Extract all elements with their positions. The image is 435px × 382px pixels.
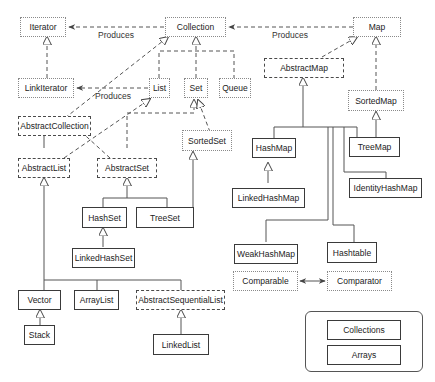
node-hashtable[interactable]: Hashtable (327, 242, 377, 263)
node-abstractcollection[interactable]: AbstractCollection (18, 116, 91, 136)
node-list[interactable]: List (149, 78, 170, 98)
edge-label-produces: Produces (272, 30, 308, 40)
node-arrays[interactable]: Arrays (327, 345, 401, 365)
node-queue[interactable]: Queue (219, 78, 251, 98)
node-abstractmap[interactable]: AbstractMap (264, 58, 344, 78)
node-vector[interactable]: Vector (18, 290, 61, 310)
node-sortedset[interactable]: SortedSet (182, 130, 232, 151)
node-arraylist[interactable]: ArrayList (74, 290, 119, 310)
node-identityhashmap[interactable]: IdentityHashMap (349, 178, 422, 198)
node-hashmap[interactable]: HashMap (252, 138, 296, 158)
node-collection[interactable]: Collection (165, 17, 226, 37)
node-set[interactable]: Set (184, 78, 208, 98)
node-map[interactable]: Map (353, 17, 401, 37)
node-linkedhashmap[interactable]: LinkedHashMap (232, 188, 305, 208)
node-linkedlist[interactable]: LinkedList (153, 334, 209, 355)
node-treeset[interactable]: TreeSet (136, 207, 194, 228)
node-sortedmap[interactable]: SortedMap (348, 90, 404, 111)
node-abstractset[interactable]: AbstractSet (97, 158, 157, 178)
node-comparable[interactable]: Comparable (233, 271, 298, 291)
node-stack[interactable]: Stack (24, 325, 55, 345)
node-abstractsequentiallist[interactable]: AbstractSequentialList (136, 290, 225, 310)
edge-label-produces: Produces (95, 91, 131, 101)
node-treemap[interactable]: TreeMap (349, 137, 400, 157)
edge-label-produces: Produces (98, 30, 134, 40)
node-abstractlist[interactable]: AbstractList (18, 158, 70, 178)
class-hierarchy-diagram: Produces Produces Produces Iterator Coll… (0, 0, 435, 382)
node-weakhashmap[interactable]: WeakHashMap (234, 244, 298, 264)
node-hashset[interactable]: HashSet (82, 207, 127, 228)
node-collections[interactable]: Collections (327, 320, 401, 340)
node-linkedhashset[interactable]: LinkedHashSet (72, 248, 135, 268)
node-iterator[interactable]: Iterator (20, 17, 66, 37)
node-comparator[interactable]: Comparator (327, 271, 392, 291)
node-linkiterator[interactable]: LinkIterator (18, 78, 74, 98)
